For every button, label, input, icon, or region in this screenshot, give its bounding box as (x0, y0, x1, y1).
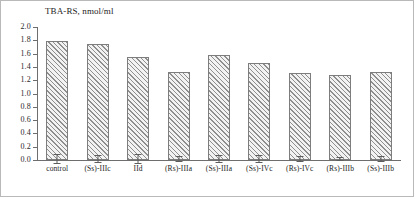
x-tick-label-2: IId (121, 164, 155, 178)
x-tick-label-8: (Ss)-IIIb (364, 164, 398, 178)
x-tick-label-4: (Ss)-IIIa (202, 164, 236, 178)
bar-slot (202, 27, 236, 160)
y-tick-mark (33, 160, 37, 161)
chart-figure: TBA-RS, nmol/ml 2.01.81.61.41.21.00.80.6… (0, 0, 414, 197)
x-tick-label-0: control (40, 164, 74, 178)
y-tick-label: 1.0 (20, 90, 31, 98)
plot-area: 2.01.81.61.41.21.00.80.60.40.20.0 (37, 27, 401, 160)
error-bar (97, 155, 98, 163)
bar (127, 57, 149, 160)
bar (168, 72, 190, 160)
chart-title: TBA-RS, nmol/ml (45, 6, 114, 16)
bar-slot (81, 27, 115, 160)
bar (289, 73, 311, 160)
error-bar (299, 156, 300, 163)
y-tick-label: 1.2 (20, 76, 31, 84)
y-tick-label: 0.4 (20, 129, 31, 137)
error-bar (218, 155, 219, 163)
x-tick-label-3: (Rs)-IIIa (161, 164, 195, 178)
bar-slot (242, 27, 276, 160)
y-tick-label: 2.0 (20, 23, 31, 31)
x-axis-labels: control(Ss)-IIIcIId(Rs)-IIIa(Ss)-IIIa(Ss… (37, 164, 401, 178)
bar-slot (364, 27, 398, 160)
x-tick-label-5: (Ss)-IVc (242, 164, 276, 178)
y-tick-label: 0.6 (20, 116, 31, 124)
x-tick-label-6: (Rs)-IVc (283, 164, 317, 178)
bar (208, 55, 230, 160)
bar-slot (323, 27, 357, 160)
error-bar (380, 156, 381, 163)
bar-slot (161, 27, 195, 160)
bar (370, 72, 392, 160)
y-tick-label: 1.6 (20, 50, 31, 58)
y-tick-label: 0.2 (20, 143, 31, 151)
x-tick-label-7: (Rs)-IIIb (323, 164, 357, 178)
y-tick-label: 1.8 (20, 36, 31, 44)
bar (248, 63, 270, 160)
y-tick-label: 1.4 (20, 63, 31, 71)
bar-slot (283, 27, 317, 160)
error-bar (57, 154, 58, 163)
bar (46, 41, 68, 160)
error-bar (259, 155, 260, 163)
x-tick-label-1: (Ss)-IIIc (81, 164, 115, 178)
bar-slot (40, 27, 74, 160)
bar-slot (121, 27, 155, 160)
error-bar (138, 154, 139, 163)
y-tick-label: 0.8 (20, 103, 31, 111)
bar (329, 75, 351, 160)
y-tick-label: 0.0 (20, 156, 31, 164)
bar-series (37, 27, 401, 160)
error-bar (178, 156, 179, 163)
bar (87, 44, 109, 160)
error-bar (340, 157, 341, 161)
